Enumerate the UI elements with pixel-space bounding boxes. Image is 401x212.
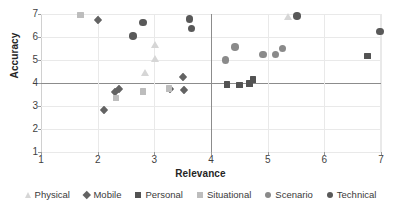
y-tick-mark [38,37,41,38]
y-tick-label: 7 [24,9,38,19]
legend-item-technical[interactable]: Technical [327,189,377,200]
legend-label: Personal [145,189,183,200]
x-tick-mark [211,152,212,155]
legend-item-scenario[interactable]: Scenario [265,189,313,200]
chart-legend: PhysicalMobilePersonalSituationalScenari… [0,189,401,200]
legend-item-personal[interactable]: Personal [135,189,183,200]
legend-item-mobile[interactable]: Mobile [84,189,122,200]
x-tick-label: 1 [31,154,51,165]
x-tick-label: 5 [258,154,278,165]
diamond-marker-icon [83,191,91,199]
x-axis-title: Relevance [0,168,401,179]
square-marker-icon [197,192,203,198]
y-axis-ticks: 1234567 [0,0,401,212]
legend-item-physical[interactable]: Physical [25,189,70,200]
x-tick-mark [324,152,325,155]
legend-label: Technical [337,189,377,200]
legend-label: Situational [207,189,251,200]
y-tick-mark [38,14,41,15]
x-tick-label: 3 [144,154,164,165]
y-tick-label: 5 [24,55,38,65]
square-marker-icon [135,192,141,198]
legend-label: Physical [35,189,70,200]
y-tick-label: 6 [24,32,38,42]
x-tick-mark [41,152,42,155]
x-tick-label: 4 [201,154,221,165]
y-axis-title: Accuracy [9,21,20,91]
x-tick-label: 2 [88,154,108,165]
y-tick-mark [38,106,41,107]
legend-label: Scenario [275,189,313,200]
y-tick-label: 2 [24,124,38,134]
x-tick-label: 6 [314,154,334,165]
y-tick-label: 3 [24,101,38,111]
x-tick-label: 7 [371,154,391,165]
scatter-chart: 1234567 1234567 Accuracy Relevance Physi… [0,0,401,212]
legend-label: Mobile [93,189,121,200]
x-tick-mark [154,152,155,155]
x-tick-mark [381,152,382,155]
x-tick-mark [98,152,99,155]
circle-marker-icon [265,192,271,198]
legend-item-situational[interactable]: Situational [197,189,251,200]
y-tick-label: 4 [24,78,38,88]
triangle-marker-icon [25,192,31,198]
y-tick-mark [38,129,41,130]
circle-marker-icon [327,192,333,198]
x-tick-mark [268,152,269,155]
y-tick-mark [38,83,41,84]
y-tick-mark [38,60,41,61]
